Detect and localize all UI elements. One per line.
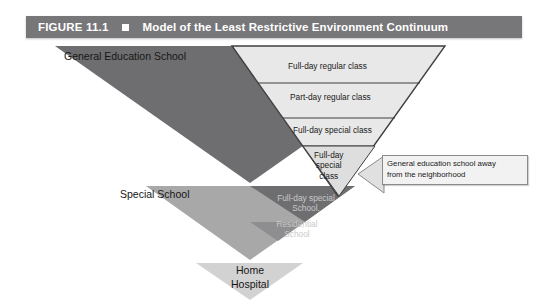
inner-row-line-1: Full-day	[314, 150, 344, 160]
inner-row-label-full-day-special-class-separate: Full-day special class	[314, 150, 344, 181]
faint-label-residential-school: Residential School	[254, 219, 340, 240]
tier-label-special-school: Special School	[120, 188, 189, 200]
faint-label-full-day-special-school: Full-day special School.	[258, 193, 354, 214]
faint-label-line-1: Full-day special	[258, 193, 354, 203]
callout-general-education-school-away: General education school away from the n…	[382, 155, 528, 185]
faint-label-line-1: Residential	[254, 219, 340, 229]
inner-row-line-3: class	[314, 171, 344, 181]
callout-line-1: General education school away	[387, 159, 523, 170]
square-bullet-icon	[122, 24, 129, 31]
home-hospital-line-1: Home	[206, 264, 294, 278]
inner-row-line-2: special	[314, 160, 344, 170]
figure-number: FIGURE 11.1	[38, 21, 109, 33]
lre-continuum-diagram: General Education School Special School …	[0, 38, 548, 306]
inner-row-label-part-day-regular-class: Part-day regular class	[290, 93, 371, 103]
tier-label-home-hospital: Home Hospital	[206, 264, 294, 291]
inner-row-label-full-day-special-class: Full-day special class	[293, 126, 372, 136]
figure-container: FIGURE 11.1 Model of the Least Restricti…	[0, 0, 548, 306]
home-hospital-line-2: Hospital	[206, 278, 294, 292]
faint-label-line-2: School	[254, 229, 340, 239]
faint-label-line-2: School.	[258, 203, 354, 213]
tier-label-general-education-school: General Education School	[64, 50, 186, 62]
figure-header-bar: FIGURE 11.1 Model of the Least Restricti…	[26, 16, 522, 38]
figure-title: Model of the Least Restrictive Environme…	[143, 21, 449, 33]
callout-line-2: from the neighborhood	[387, 170, 523, 181]
inner-row-label-full-day-regular-class: Full-day regular class	[288, 62, 367, 72]
